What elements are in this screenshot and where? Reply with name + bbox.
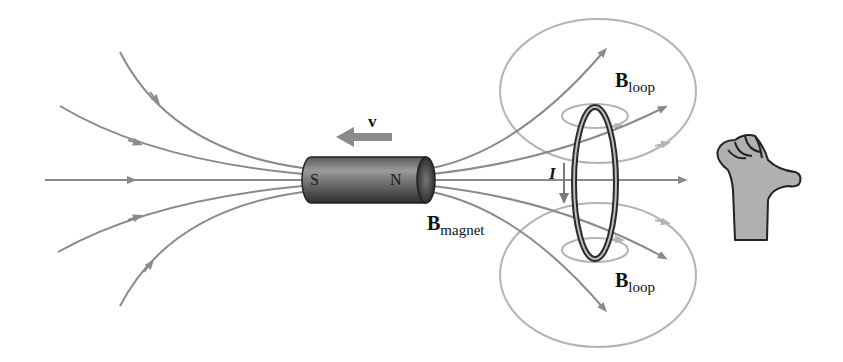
magnet-north-end xyxy=(417,157,435,203)
right-hand-icon xyxy=(717,135,800,240)
b-loop-bottom-subscript: loop xyxy=(628,279,655,295)
current-loop xyxy=(574,107,616,259)
magnet-field-lines-left xyxy=(45,52,303,306)
b-magnet-subscript: magnet xyxy=(440,222,484,238)
b-magnet-symbol: B xyxy=(427,212,440,234)
b-loop-bottom-label: Bloop xyxy=(615,270,655,290)
b-loop-bottom-symbol: B xyxy=(615,269,628,291)
magnet-north-label: N xyxy=(390,172,402,188)
velocity-arrow xyxy=(336,127,392,147)
lenz-law-diagram xyxy=(0,0,843,362)
b-magnet-label: Bmagnet xyxy=(427,213,485,233)
current-arrow xyxy=(559,163,569,204)
loop-field-outer-bottom xyxy=(500,203,696,347)
b-loop-top-subscript: loop xyxy=(628,79,655,95)
b-loop-top-label: Bloop xyxy=(615,70,655,90)
loop-field-outer-top xyxy=(500,19,696,163)
loop-field-lines xyxy=(500,19,696,347)
bar-magnet xyxy=(302,157,435,203)
current-label: I xyxy=(549,165,556,182)
b-loop-top-symbol: B xyxy=(615,69,628,91)
magnet-south-label: S xyxy=(310,172,319,188)
velocity-label: v xyxy=(368,113,377,130)
